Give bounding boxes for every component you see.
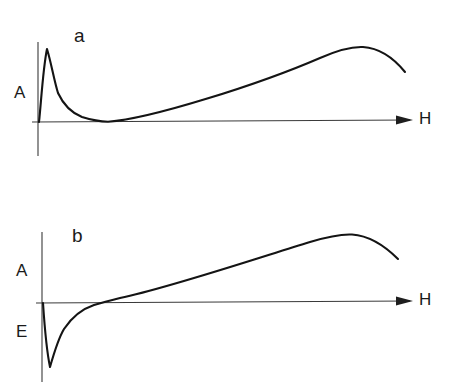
- panel-a-x-axis-arrowhead: [396, 116, 413, 125]
- figure-root: A H a A E H b: [0, 0, 458, 392]
- panel-a-y-axis-label: A: [14, 84, 25, 101]
- panel-b-y-axis-label: A: [16, 262, 27, 279]
- panel-a-x-axis: [32, 120, 410, 122]
- panel-b-x-axis: [36, 301, 410, 303]
- panel-b-x-axis-arrowhead: [396, 297, 413, 306]
- panel-a: A H a: [0, 0, 458, 196]
- panel-b-curve: [43, 234, 398, 367]
- panel-b-plot: [0, 196, 458, 392]
- panel-a-plot: [0, 0, 458, 196]
- panel-a-curve: [39, 47, 405, 122]
- panel-b-secondary-y-axis-label: E: [16, 323, 27, 340]
- panel-a-x-axis-label: H: [419, 110, 431, 127]
- panel-a-letter: a: [74, 26, 85, 45]
- panel-b-x-axis-label: H: [419, 291, 431, 308]
- panel-b: A E H b: [0, 196, 458, 392]
- panel-b-letter: b: [72, 226, 83, 245]
